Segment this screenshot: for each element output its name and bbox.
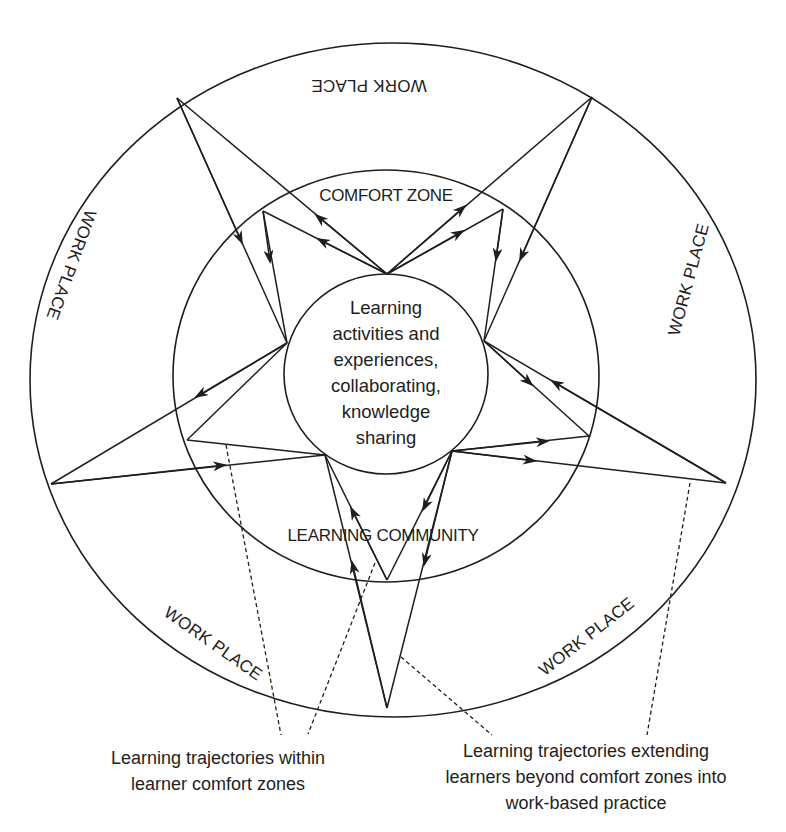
learning-community-label: LEARNING COMMUNITY bbox=[287, 526, 478, 545]
work-place-label-bottom-right: WORK PLACE bbox=[535, 594, 638, 680]
work-place-label-right: WORK PLACE bbox=[665, 221, 713, 337]
caption-within: Learning trajectories within learner com… bbox=[111, 748, 325, 794]
learning-trajectories-diagram: COMFORT ZONE LEARNING COMMUNITY WORK PLA… bbox=[0, 0, 786, 832]
center-line: collaborating, bbox=[331, 375, 441, 396]
caption-line: learner comfort zones bbox=[131, 774, 305, 794]
leader-extending-2 bbox=[647, 483, 690, 735]
leader-within-2 bbox=[308, 563, 375, 734]
center-line: knowledge bbox=[342, 401, 430, 422]
center-line: sharing bbox=[356, 427, 417, 448]
caption-line: Learning trajectories within bbox=[111, 748, 325, 768]
caption-extending: Learning trajectories extending learners… bbox=[445, 741, 726, 813]
center-line: activities and bbox=[333, 323, 440, 344]
caption-leaders bbox=[226, 445, 690, 735]
comfort-zone-label: COMFORT ZONE bbox=[319, 186, 453, 205]
leader-extending-1 bbox=[401, 657, 492, 735]
center-line: Learning bbox=[350, 297, 422, 318]
center-label: Learning activities and experiences, col… bbox=[331, 297, 441, 448]
center-line: experiences, bbox=[334, 349, 439, 370]
caption-line: Learning trajectories extending bbox=[463, 741, 709, 761]
caption-line: work-based practice bbox=[504, 793, 666, 813]
caption-line: learners beyond comfort zones into bbox=[445, 767, 726, 787]
work-place-label-top: WORK PLACE bbox=[311, 76, 426, 95]
